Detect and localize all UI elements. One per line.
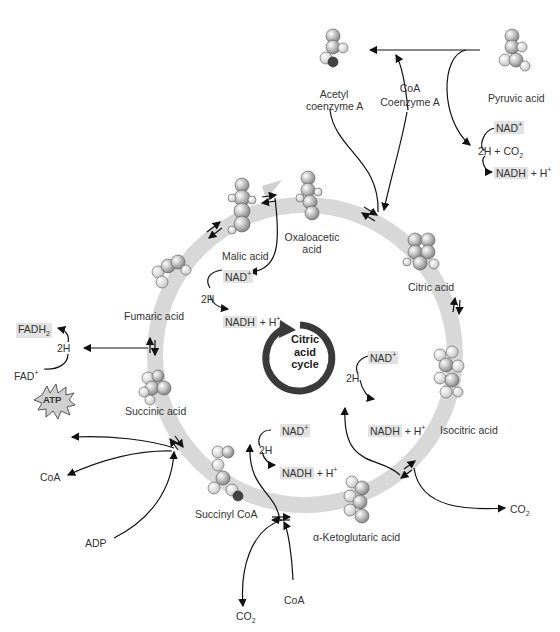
label-ketoglutaric-acid: α-Ketoglutaric acid [313,531,400,543]
label-isocitric-acid: Isocitric acid [440,424,498,436]
label-entry-2h-co2: 2H + CO2 [478,145,523,160]
molecule-pyruvic-acid [499,29,530,71]
molecule-citric-acid [403,233,439,270]
label-kg-co2: CO2 [236,610,256,625]
center-title: Citric acid cycle [284,333,326,371]
label-fad: FAD+ [14,369,39,382]
label-iso-co2: CO2 [510,503,530,518]
label-malate-2h: 2H [201,293,214,305]
label-succinyl-coa-out: CoA [40,471,60,483]
label-acetyl-coa: Acetyl coenzyme A [306,88,362,112]
label-kg-nad: NAD+ [280,424,310,437]
molecule-ketoglutaric-acid [344,476,369,523]
label-iso-2h: 2H [346,372,359,384]
label-adp: ADP [85,537,107,549]
label-succinate-2h: 2H [57,342,70,354]
entry-arrows [330,50,495,212]
label-atp: ATP [43,395,61,406]
label-pyruvic-acid: Pyruvic acid [488,92,545,104]
label-entry-nadh: NADH + H+ [494,166,551,179]
label-succinic-acid: Succinic acid [125,405,186,417]
label-kg-coa: CoA [284,594,304,606]
label-entry-nad: NAD+ [494,121,524,134]
label-oxaloacetic-acid: Oxaloacetic acid [282,231,342,255]
label-iso-nadh: NADH + H+ [368,424,425,437]
label-coa-entry: CoA [380,82,440,94]
label-iso-nad: NAD+ [368,351,398,364]
label-kg-2h: 2H [259,444,272,456]
label-malic-acid: Malic acid [222,250,269,262]
label-coenzyme-a: Coenzyme A [372,96,448,108]
molecule-acetyl-coa [320,29,348,67]
label-fadh2: FADH2 [16,323,52,338]
label-malate-nad: NAD+ [223,270,253,283]
label-fumaric-acid: Fumaric acid [124,310,184,322]
label-citric-acid: Citric acid [408,281,454,293]
label-kg-nadh: NADH + H+ [280,466,337,479]
label-succinyl-coa: Succinyl CoA [195,508,257,520]
label-malate-nadh: NADH + H+ [223,315,280,328]
